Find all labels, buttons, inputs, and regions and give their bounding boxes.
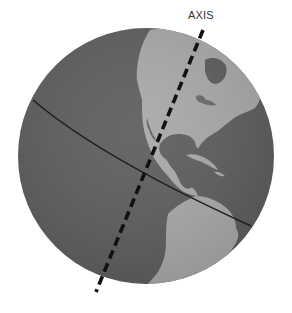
axis-label: AXIS [188,9,214,21]
landmasses [18,28,274,292]
earth-axis-diagram [0,0,292,313]
